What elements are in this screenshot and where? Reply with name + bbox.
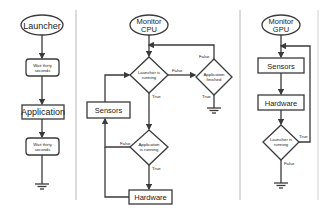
wait2-line2: seconds	[35, 147, 51, 152]
hardware-label-gpu: Hardware	[265, 99, 298, 108]
wait1-line2: seconds	[35, 68, 51, 73]
ground-icon-gpu	[274, 183, 288, 188]
hardware-label-cpu: Hardware	[134, 193, 167, 202]
label-false-app-running: False	[120, 141, 131, 146]
label-false-launcher: False	[172, 68, 183, 73]
application-label: Application	[21, 107, 65, 117]
ground-icon-cpu	[207, 108, 221, 113]
app-finished-line2: finished	[207, 77, 222, 82]
label-false-gpu: False	[284, 161, 295, 166]
label-true-launcher: True	[152, 94, 161, 99]
ground-icon-launcher	[35, 184, 49, 189]
gpu-dec-launcher-line2: running	[274, 142, 289, 147]
label-true-app-running: True	[152, 166, 161, 171]
sensors-label-cpu: Sensors	[95, 106, 123, 115]
sensors-label-gpu: Sensors	[267, 62, 295, 71]
label-true-gpu: True	[299, 134, 308, 139]
monitor-cpu-line2: CPU	[141, 25, 157, 34]
launcher-label: Launcher	[23, 21, 61, 31]
label-true-app-finished: True	[202, 94, 211, 99]
label-false-app-finished: False	[199, 54, 210, 59]
flowchart-canvas: Launcher Wait thirty seconds Application…	[0, 0, 328, 211]
cpu-dec-launcher-line2: running	[142, 75, 157, 80]
app-running-line2: is running	[140, 147, 159, 152]
monitor-gpu-line2: GPU	[273, 25, 289, 34]
